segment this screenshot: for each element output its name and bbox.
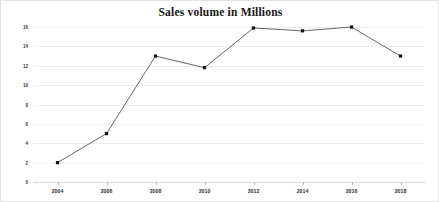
data-point-marker-2010 [203,66,206,69]
line-series-sales-volume [33,27,425,182]
data-point-marker-2014 [301,29,304,32]
data-point-marker-2018 [399,54,402,57]
y-axis-tick-label: 16 [23,25,28,30]
data-point-marker-2008 [154,54,157,57]
y-axis-tick-label: 10 [23,83,28,88]
x-axis-tick-label: 2012 [248,188,260,194]
x-axis-tick-mark [156,182,157,185]
chart-title: Sales volume in Millions [1,6,439,18]
data-point-marker-2004 [56,161,59,164]
series-polyline [58,27,401,163]
x-axis-tick-mark [401,182,402,185]
data-point-marker-2012 [252,26,255,29]
plot-area: 0246810121416 [33,27,425,182]
x-axis-tick-mark [58,182,59,185]
x-axis-tick-label: 2018 [395,188,407,194]
y-axis-tick-label: 4 [25,141,28,146]
x-axis-tick-mark [352,182,353,185]
series-markers-group [56,25,402,164]
y-axis-tick-label: 0 [25,180,28,185]
x-axis-tick-mark [254,182,255,185]
chart-screenshot: Sales volume in Millions 0246810121416 2… [0,0,439,202]
y-axis-tick-label: 12 [23,63,28,68]
x-axis-tick-label: 2008 [150,188,162,194]
data-point-marker-2006 [105,132,108,135]
data-point-marker-2016 [350,25,353,28]
x-axis-tick-mark [107,182,108,185]
y-axis-tick-label: 8 [25,102,28,107]
y-axis-tick-label: 2 [25,160,28,165]
y-axis-tick-label: 6 [25,121,28,126]
x-axis-tick-mark [303,182,304,185]
x-axis-tick-mark [205,182,206,185]
x-axis-tick-label: 2004 [52,188,64,194]
y-axis-tick-label: 14 [23,44,28,49]
x-axis-tick-label: 2016 [346,188,358,194]
x-axis-tick-label: 2006 [101,188,113,194]
x-axis-tick-label: 2010 [199,188,211,194]
x-axis-tick-label: 2014 [297,188,309,194]
x-axis: 20042006200820102012201420162018 [33,182,425,202]
